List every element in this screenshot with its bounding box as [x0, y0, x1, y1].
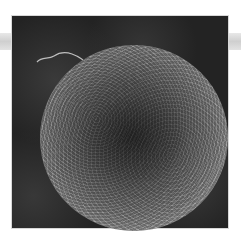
spherical-particle	[40, 45, 228, 231]
surface-texture	[40, 45, 228, 231]
right-gray-band	[226, 33, 241, 50]
fiber-strand	[36, 50, 84, 64]
micrograph-frame	[12, 16, 228, 228]
